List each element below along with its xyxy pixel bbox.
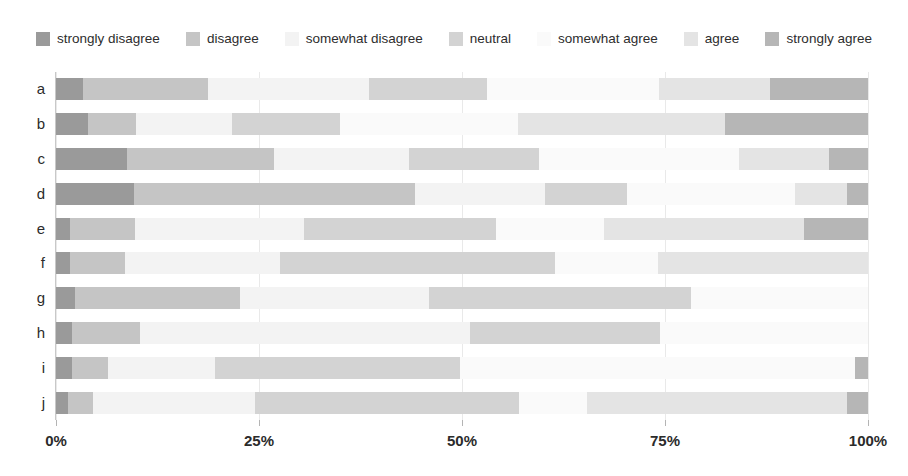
bar-segment-agree[interactable]: [795, 183, 847, 205]
y-tick-label-c: c: [38, 148, 46, 170]
bar-segment-strongly-disagree[interactable]: [56, 78, 83, 100]
legend-item-somewhat-disagree[interactable]: somewhat disagree: [285, 32, 423, 46]
bar-row-d[interactable]: [56, 183, 868, 205]
bar-segment-agree[interactable]: [659, 78, 769, 100]
bar-segment-somewhat-disagree[interactable]: [93, 392, 255, 414]
bar-segment-strongly-disagree[interactable]: [56, 113, 88, 135]
bar-segment-strongly-disagree[interactable]: [56, 252, 70, 274]
bar-segment-strongly-agree[interactable]: [804, 218, 868, 240]
bar-segment-somewhat-disagree[interactable]: [208, 78, 370, 100]
bar-segment-somewhat-disagree[interactable]: [274, 148, 409, 170]
bar-segment-strongly-agree[interactable]: [847, 392, 868, 414]
bar-row-h[interactable]: [56, 322, 868, 344]
bar-segment-disagree[interactable]: [88, 113, 136, 135]
bar-segment-neutral[interactable]: [215, 357, 460, 379]
bar-segment-somewhat-disagree[interactable]: [140, 322, 470, 344]
bar-segment-somewhat-agree[interactable]: [555, 252, 657, 274]
x-tick-label-75%: 75%: [650, 432, 680, 449]
y-tick-label-a: a: [37, 78, 45, 100]
bar-segment-disagree[interactable]: [83, 78, 208, 100]
bar-segment-strongly-agree[interactable]: [855, 357, 868, 379]
bar-segment-strongly-disagree[interactable]: [56, 322, 72, 344]
bar-segment-somewhat-agree[interactable]: [487, 78, 659, 100]
bar-segment-agree[interactable]: [604, 218, 804, 240]
bar-segment-strongly-agree[interactable]: [725, 113, 868, 135]
bar-segment-strongly-agree[interactable]: [770, 78, 868, 100]
bar-segment-disagree[interactable]: [70, 252, 125, 274]
bar-segment-somewhat-agree[interactable]: [539, 148, 739, 170]
legend-item-disagree[interactable]: disagree: [186, 32, 259, 46]
bar-segment-strongly-agree[interactable]: [829, 148, 868, 170]
bar-segment-strongly-disagree[interactable]: [56, 218, 70, 240]
bar-row-c[interactable]: [56, 148, 868, 170]
bar-segment-somewhat-agree[interactable]: [519, 392, 587, 414]
bar-segment-neutral[interactable]: [545, 183, 627, 205]
y-tick-label-e: e: [37, 218, 45, 240]
bar-segment-strongly-agree[interactable]: [847, 183, 868, 205]
bar-segment-disagree[interactable]: [72, 322, 140, 344]
bar-segment-somewhat-disagree[interactable]: [108, 357, 215, 379]
legend-item-strongly-agree[interactable]: strongly agree: [765, 32, 872, 46]
bar-segment-agree[interactable]: [587, 392, 847, 414]
bar-row-b[interactable]: [56, 113, 868, 135]
bar-segment-somewhat-disagree[interactable]: [125, 252, 280, 274]
legend-swatch-icon: [285, 32, 299, 46]
bar-segment-somewhat-disagree[interactable]: [415, 183, 545, 205]
bar-segment-neutral[interactable]: [255, 392, 519, 414]
bar-segment-neutral[interactable]: [429, 287, 691, 309]
bar-segment-strongly-disagree[interactable]: [56, 392, 68, 414]
y-tick-label-b: b: [37, 113, 45, 135]
x-tick-label-50%: 50%: [447, 432, 477, 449]
x-tick-mark: [56, 420, 57, 426]
bar-row-i[interactable]: [56, 357, 868, 379]
bar-segment-strongly-disagree[interactable]: [56, 183, 134, 205]
bar-segment-disagree[interactable]: [134, 183, 415, 205]
bar-segment-agree[interactable]: [739, 148, 829, 170]
bar-segment-somewhat-disagree[interactable]: [240, 287, 428, 309]
bar-segment-neutral[interactable]: [470, 322, 660, 344]
bar-segment-somewhat-agree[interactable]: [691, 287, 868, 309]
bar-segment-somewhat-agree[interactable]: [340, 113, 518, 135]
gridline: [868, 72, 869, 420]
bar-segment-disagree[interactable]: [68, 392, 92, 414]
bar-segment-agree[interactable]: [658, 252, 868, 274]
bar-segment-strongly-disagree[interactable]: [56, 287, 75, 309]
bar-row-g[interactable]: [56, 287, 868, 309]
bar-segment-disagree[interactable]: [75, 287, 241, 309]
bar-segment-somewhat-disagree[interactable]: [136, 113, 232, 135]
bar-segment-neutral[interactable]: [232, 113, 340, 135]
y-tick-label-f: f: [41, 252, 45, 274]
bar-segment-disagree[interactable]: [72, 357, 108, 379]
bar-segment-somewhat-disagree[interactable]: [135, 218, 305, 240]
bar-segment-somewhat-agree[interactable]: [496, 218, 604, 240]
bar-row-f[interactable]: [56, 252, 868, 274]
legend-swatch-icon: [449, 32, 463, 46]
x-tick-mark: [868, 420, 869, 426]
bar-segment-strongly-disagree[interactable]: [56, 148, 127, 170]
legend-swatch-icon: [186, 32, 200, 46]
plot-area: [56, 72, 868, 420]
bar-row-e[interactable]: [56, 218, 868, 240]
bar-segment-strongly-disagree[interactable]: [56, 357, 72, 379]
bar-row-a[interactable]: [56, 78, 868, 100]
legend-item-somewhat-agree[interactable]: somewhat agree: [537, 32, 658, 46]
bar-segment-agree[interactable]: [518, 113, 725, 135]
bar-segment-disagree[interactable]: [70, 218, 135, 240]
legend-item-agree[interactable]: agree: [684, 32, 740, 46]
bar-row-j[interactable]: [56, 392, 868, 414]
bar-segment-neutral[interactable]: [409, 148, 539, 170]
bar-segment-disagree[interactable]: [127, 148, 275, 170]
bar-segment-neutral[interactable]: [304, 218, 496, 240]
bar-segment-somewhat-agree[interactable]: [627, 183, 795, 205]
y-tick-label-g: g: [37, 287, 45, 309]
bar-segment-neutral[interactable]: [280, 252, 555, 274]
legend-item-neutral[interactable]: neutral: [449, 32, 511, 46]
y-tick-label-d: d: [37, 183, 45, 205]
x-tick-label-25%: 25%: [244, 432, 274, 449]
bar-segment-somewhat-agree[interactable]: [460, 357, 855, 379]
x-tick-label-0%: 0%: [45, 432, 67, 449]
bar-segment-neutral[interactable]: [369, 78, 487, 100]
bar-segment-somewhat-agree[interactable]: [660, 322, 868, 344]
legend-item-strongly-disagree[interactable]: strongly disagree: [36, 32, 160, 46]
bar-rows: [56, 72, 868, 420]
